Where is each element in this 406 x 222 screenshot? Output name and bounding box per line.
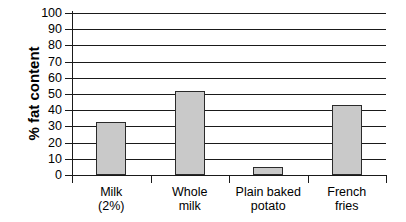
x-axis-tick (229, 175, 230, 183)
y-axis-tick (65, 78, 72, 79)
gridline (72, 45, 386, 46)
x-axis-category-label-line: potato (223, 199, 313, 213)
x-axis-category-label: Milk(2%) (66, 185, 156, 213)
x-axis-category-label-line: Milk (66, 185, 156, 199)
gridline (72, 62, 386, 63)
x-axis-category-label: Plain bakedpotato (223, 185, 313, 213)
bar (96, 122, 126, 175)
bar (332, 105, 362, 175)
y-axis-tick-labels: 1009080706050403020100 (34, 0, 62, 222)
x-axis-tick (308, 175, 309, 183)
x-axis-category-label-line: fries (302, 199, 392, 213)
y-axis-tick-label: 50 (36, 88, 62, 101)
y-axis-tick-label: 40 (36, 104, 62, 117)
bar-chart: % fat content 1009080706050403020100 Mil… (0, 0, 406, 222)
y-axis-tick (65, 143, 72, 144)
gridline (72, 13, 386, 14)
x-axis-tick (151, 175, 152, 183)
y-axis-tick-label: 20 (36, 137, 62, 150)
gridline (72, 94, 386, 95)
x-axis-category-label: Wholemilk (145, 185, 235, 213)
y-axis-tick (65, 110, 72, 111)
gridline (72, 29, 386, 30)
bar (253, 167, 283, 175)
y-axis-tick-label: 0 (36, 169, 62, 182)
y-axis-tick (65, 159, 72, 160)
x-axis-category-label-line: Whole (145, 185, 235, 199)
x-axis-category-label-line: milk (145, 199, 235, 213)
y-axis-tick-label: 100 (36, 7, 62, 20)
y-axis-tick-label: 70 (36, 56, 62, 69)
y-axis-tick-label: 10 (36, 153, 62, 166)
y-axis-tick (65, 126, 72, 127)
y-axis-tick (65, 45, 72, 46)
y-axis-tick-label: 60 (36, 72, 62, 85)
x-axis-tick (386, 175, 387, 183)
y-axis-tick (65, 13, 72, 14)
y-axis-tick (65, 29, 72, 30)
y-axis-tick-label: 30 (36, 120, 62, 133)
gridline (72, 78, 386, 79)
x-axis-tick (72, 175, 73, 183)
y-axis-tick (65, 175, 72, 176)
x-axis-category-label-line: French (302, 185, 392, 199)
x-axis-category-label-line: Plain baked (223, 185, 313, 199)
y-axis-tick (65, 94, 72, 95)
x-axis-category-label: Frenchfries (302, 185, 392, 213)
x-axis-category-label-line: (2%) (66, 199, 156, 213)
y-axis-tick-label: 90 (36, 23, 62, 36)
y-axis-tick-label: 80 (36, 39, 62, 52)
bar (175, 91, 205, 175)
y-axis-tick (65, 62, 72, 63)
plot-area (72, 13, 386, 175)
